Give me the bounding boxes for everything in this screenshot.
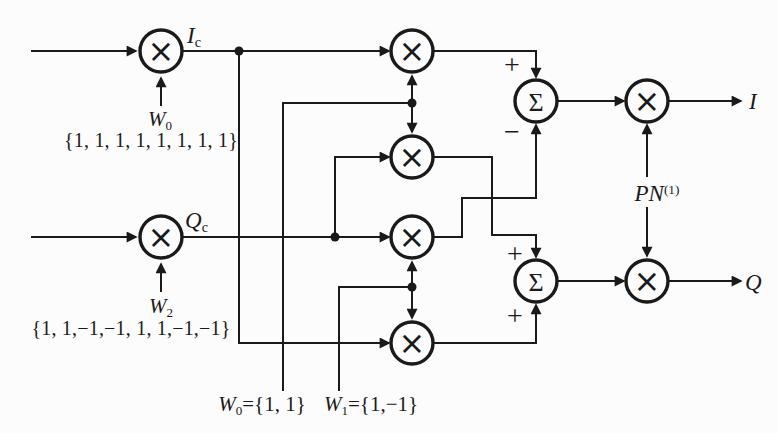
sign-summer-i-top: + [504,49,520,80]
label-pn-code: PN(1) [635,182,680,205]
label-w1-definition: W1={1,−1} [324,394,418,415]
label-ic-base: I [187,23,195,48]
label-w0-sequence: {1, 1, 1, 1, 1, 1, 1, 1} [64,130,238,150]
label-w1-def-value: ={1,−1} [348,392,418,416]
label-w0-input-base: W [148,107,166,131]
spreading-diagram: × × × × × × Σ Σ × × + − + + Ic Qc W0 {1,… [0,0,778,433]
multiply-icon: × [399,138,426,176]
wire-ic-branch-to-w1-mixer [239,51,389,343]
multiply-icon: × [399,218,426,256]
junction-qc [331,233,340,242]
wire-qcw1-to-summer-i [433,125,536,237]
sign-summer-q-bottom: + [507,300,523,331]
label-ic: Ic [187,24,201,47]
sigma-icon: Σ [528,268,543,297]
label-ic-sub: c [195,34,201,50]
label-w0-input: W0 [148,109,172,130]
sign-summer-q-top: + [507,238,523,269]
wire-icw0-to-summer-i [433,51,536,77]
multiply-icon: × [148,32,175,70]
junction-w1 [408,283,417,292]
diagram-canvas: × × × × × × Σ Σ × × + − + + [0,0,778,433]
label-w2-sequence: {1, 1,−1,−1, 1, 1,−1,−1} [31,318,230,338]
junction-ic [235,47,244,56]
label-pn-sup: (1) [664,182,680,197]
label-qc: Qc [185,209,208,232]
label-w1-def-base: W [324,392,342,416]
label-w0-definition: W0={1, 1} [218,394,306,415]
label-qc-sub: c [202,219,208,235]
label-output-q: Q [745,271,762,294]
multiply-icon: × [634,262,661,300]
label-output-i: I [749,90,757,113]
wire-qc-branch-to-w0-mixer [335,157,389,237]
label-w2-input-base: W [149,294,167,318]
sign-summer-i-bottom: − [504,116,520,147]
multiply-icon: × [399,32,426,70]
label-w0-def-value: ={1, 1} [242,392,306,416]
label-pn-base: PN [635,181,664,206]
junction-w0 [408,99,417,108]
multiply-icon: × [399,324,426,362]
sigma-icon: Σ [528,88,543,117]
multiply-icon: × [634,82,661,120]
multiply-icon: × [148,218,175,256]
label-w2-input: W2 [149,296,173,317]
label-w0-def-base: W [218,392,236,416]
label-qc-base: Q [185,208,202,233]
